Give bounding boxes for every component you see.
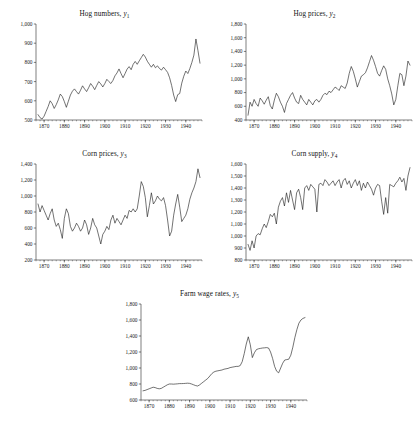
x-tick-label-hog-prices: 1870 [249,123,260,129]
y-tick-label-corn-supply: 900 [235,245,243,251]
chart-svg-farm-wage-rates: 6008001,0001,2001,4001,6001,800187018801… [107,300,312,420]
y-tick-label-hog-prices: 400 [235,117,243,123]
x-tick-label-corn-prices: 1880 [59,263,70,269]
x-tick-label-corn-supply: 1930 [370,263,381,269]
series-line-hog-numbers [38,39,200,119]
y-tick-label-hog-prices: 600 [235,103,243,109]
x-tick-label-farm-wage-rates: 1910 [225,403,236,409]
x-tick-label-corn-supply: 1890 [289,263,300,269]
panel-hog-numbers: Hog numbers, y1 5006007008009001,0001870… [2,10,207,140]
x-tick-label-corn-supply: 1900 [310,263,321,269]
y-tick-label-corn-supply: 1,300 [231,197,243,203]
x-tick-label-farm-wage-rates: 1900 [205,403,216,409]
x-tick-label-hog-numbers: 1880 [59,123,70,129]
y-tick-label-farm-wage-rates: 1,600 [126,317,138,323]
x-tick-label-corn-prices: 1870 [39,263,50,269]
y-tick-label-hog-prices: 800 [235,89,243,95]
y-tick-label-hog-numbers: 600 [25,98,33,104]
x-tick-label-corn-prices: 1900 [100,263,111,269]
y-tick-label-farm-wage-rates: 800 [130,381,138,387]
x-tick-label-farm-wage-rates: 1930 [265,403,276,409]
x-tick-label-corn-prices: 1890 [79,263,90,269]
panel-series-symbol: y4 [331,150,337,158]
x-tick-label-hog-prices: 1890 [289,123,300,129]
y-tick-label-hog-prices: 1,800 [231,21,243,27]
y-tick-label-hog-prices: 1,400 [231,48,243,54]
x-tick-label-hog-prices: 1930 [370,123,381,129]
panel-corn-prices: Corn prices, y3 2004006008001,0001,2001,… [2,150,207,280]
x-tick-label-hog-prices: 1880 [269,123,280,129]
x-tick-label-farm-wage-rates: 1920 [245,403,256,409]
plot-area-corn-prices: 2004006008001,0001,2001,4001870188018901… [2,160,207,280]
y-tick-label-hog-numbers: 800 [25,59,33,65]
series-line-hog-prices [248,56,410,116]
x-tick-label-hog-numbers: 1890 [79,123,90,129]
x-tick-label-farm-wage-rates: 1890 [184,403,195,409]
x-tick-label-hog-numbers: 1930 [160,123,171,129]
panel-title-text: Corn supply, [292,150,330,158]
y-tick-label-corn-supply: 1,000 [231,233,243,239]
y-tick-label-hog-numbers: 900 [25,40,33,46]
x-tick-label-hog-prices: 1910 [330,123,341,129]
y-tick-label-farm-wage-rates: 1,200 [126,349,138,355]
y-tick-label-corn-supply: 1,200 [231,209,243,215]
plot-area-hog-prices: 4006008001,0001,2001,4001,6001,800187018… [212,20,417,140]
multi-panel-timeseries-figure: Hog numbers, y1 5006007008009001,0001870… [0,0,420,422]
chart-svg-corn-prices: 2004006008001,0001,2001,4001870188018901… [2,160,207,280]
x-tick-label-farm-wage-rates: 1880 [164,403,175,409]
y-tick-label-farm-wage-rates: 1,000 [126,365,138,371]
plot-area-corn-supply: 8009001,0001,1001,2001,3001,4001,5001,60… [212,160,417,280]
y-tick-label-hog-numbers: 500 [25,117,33,123]
x-tick-label-hog-numbers: 1920 [140,123,151,129]
x-tick-label-corn-supply: 1880 [269,263,280,269]
y-tick-label-farm-wage-rates: 600 [130,397,138,403]
x-tick-label-corn-supply: 1940 [391,263,402,269]
panel-title-hog-numbers: Hog numbers, y1 [2,10,207,20]
plot-area-farm-wage-rates: 6008001,0001,2001,4001,6001,800187018801… [107,300,312,420]
panel-title-text: Hog prices, [293,10,327,18]
x-tick-label-hog-numbers: 1870 [39,123,50,129]
panel-title-corn-prices: Corn prices, y3 [2,150,207,160]
y-tick-label-corn-prices: 400 [25,241,33,247]
panel-title-farm-wage-rates: Farm wage rates, y5 [107,290,312,300]
y-tick-label-farm-wage-rates: 1,400 [126,333,138,339]
chart-svg-hog-prices: 4006008001,0001,2001,4001,6001,800187018… [212,20,417,140]
x-tick-label-hog-numbers: 1910 [120,123,131,129]
x-tick-label-hog-prices: 1940 [391,123,402,129]
x-tick-label-corn-supply: 1910 [330,263,341,269]
y-tick-label-hog-numbers: 700 [25,79,33,85]
series-line-corn-prices [38,169,200,244]
x-tick-label-farm-wage-rates: 1870 [144,403,155,409]
series-line-corn-supply [248,168,410,251]
y-tick-label-corn-supply: 1,600 [231,161,243,167]
panel-title-hog-prices: Hog prices, y2 [212,10,417,20]
x-tick-label-hog-prices: 1900 [310,123,321,129]
plot-area-hog-numbers: 5006007008009001,00018701880189019001910… [2,20,207,140]
y-tick-label-hog-prices: 1,600 [231,35,243,41]
panel-farm-wage-rates: Farm wage rates, y5 6008001,0001,2001,40… [107,290,312,420]
y-tick-label-corn-supply: 1,100 [231,221,243,227]
y-tick-label-hog-prices: 1,000 [231,76,243,82]
panel-series-symbol: y1 [123,10,129,18]
panel-title-corn-supply: Corn supply, y4 [212,150,417,160]
x-tick-label-corn-prices: 1910 [120,263,131,269]
y-tick-label-hog-numbers: 1,000 [21,21,33,27]
chart-svg-hog-numbers: 5006007008009001,00018701880189019001910… [2,20,207,140]
y-tick-label-corn-supply: 800 [235,257,243,263]
panel-series-symbol: y3 [121,150,127,158]
panel-title-text: Hog numbers, [80,10,122,18]
x-tick-label-corn-prices: 1920 [140,263,151,269]
x-tick-label-hog-numbers: 1900 [100,123,111,129]
series-line-farm-wage-rates [143,318,305,391]
x-tick-label-corn-prices: 1930 [160,263,171,269]
panel-series-symbol: y5 [233,290,239,298]
x-tick-label-hog-numbers: 1940 [181,123,192,129]
y-tick-label-hog-prices: 1,200 [231,62,243,68]
y-tick-label-corn-prices: 1,000 [21,193,33,199]
panel-series-symbol: y2 [330,10,336,18]
y-tick-label-corn-prices: 1,200 [21,177,33,183]
y-tick-label-corn-supply: 1,500 [231,173,243,179]
chart-svg-corn-supply: 8009001,0001,1001,2001,3001,4001,5001,60… [212,160,417,280]
y-tick-label-corn-prices: 200 [25,257,33,263]
panel-hog-prices: Hog prices, y2 4006008001,0001,2001,4001… [212,10,417,140]
